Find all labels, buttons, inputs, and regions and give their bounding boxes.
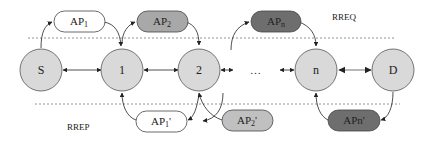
svg-text:2: 2 <box>196 63 202 77</box>
svg-text:S: S <box>38 63 45 77</box>
ap2-prime-box: AP2' <box>222 110 273 131</box>
arrow-ap2-to-2 <box>186 22 199 45</box>
rreq-label: RREQ <box>332 12 357 22</box>
ap1-box: AP1 <box>54 11 105 32</box>
aodv-route-diagram: RREQ RREP … S 1 2 n D AP1 <box>0 0 432 145</box>
rrep-label: RREP <box>67 122 90 132</box>
ap1-prime-box: AP1' <box>136 111 187 132</box>
ap2-box: AP2 <box>137 11 188 32</box>
arrow-to-ap2-prime <box>203 93 223 121</box>
arrow-s-to-ap1 <box>41 22 52 48</box>
arrow-ap1-to-1 <box>104 22 121 46</box>
apn-prime-box: APn' <box>328 110 380 131</box>
arrow-1-to-ap2 <box>122 22 135 44</box>
apn-box: APn <box>251 11 301 32</box>
arrow-d-to-apn-prime <box>381 92 393 120</box>
node-n: n <box>295 49 337 91</box>
arrow-apn-to-n <box>299 22 316 46</box>
arrow-2-to-ap1-prime <box>188 94 199 120</box>
svg-text:1: 1 <box>119 63 125 77</box>
arrow-ap1-prime-to-1 <box>122 93 136 120</box>
arrow-apn-prime-to-n <box>316 93 328 120</box>
svg-text:D: D <box>389 63 398 77</box>
svg-text:n: n <box>313 63 319 77</box>
node-2: 2 <box>178 49 220 91</box>
node-1: 1 <box>101 49 143 91</box>
node-d: D <box>372 49 414 91</box>
svg-text:APn': APn' <box>343 114 365 126</box>
arrow-to-apn <box>231 22 249 50</box>
node-s: S <box>20 49 62 91</box>
ellipsis: … <box>250 64 261 76</box>
arrow-ap2-prime-to-2 <box>199 93 222 120</box>
